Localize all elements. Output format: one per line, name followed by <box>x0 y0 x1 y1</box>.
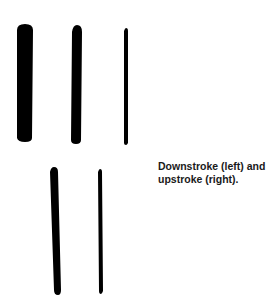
figure-caption: Downstroke (left) and upstroke (right). <box>158 160 276 186</box>
medium-stroke <box>71 25 82 144</box>
upstroke <box>98 169 103 294</box>
thick-stroke <box>17 24 33 142</box>
bottom-row-strokes <box>50 167 103 295</box>
thin-stroke <box>124 28 128 145</box>
downstroke <box>50 167 61 295</box>
top-row-strokes <box>17 24 128 145</box>
stroke-illustration <box>0 0 278 305</box>
